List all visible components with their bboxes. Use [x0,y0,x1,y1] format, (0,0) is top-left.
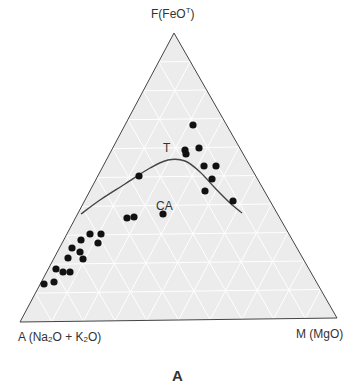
ternary-triangle [20,33,337,322]
data-point [76,248,83,255]
data-point [77,236,84,243]
ternary-chart: T CA F(FeOT) A (Na2O + K2O) M (MgO) A [0,0,355,391]
data-point [68,244,75,251]
data-point [52,265,59,272]
data-point [212,162,219,169]
data-point [135,172,142,179]
data-point [195,144,202,151]
data-point [123,214,130,221]
data-point [130,213,137,220]
data-point [229,197,236,204]
data-point [86,230,93,237]
data-point [182,150,189,157]
vertex-label-top: F(FeOT) [151,6,195,21]
data-point [189,121,196,128]
field-label-ca: CA [156,199,173,213]
chart-caption: A [172,367,183,384]
data-point [59,268,66,275]
data-point [40,280,47,287]
data-point [97,230,104,237]
data-point [94,239,101,246]
data-point [208,175,215,182]
data-point [66,268,73,275]
data-point [64,254,71,261]
data-point [79,255,86,262]
data-point [200,162,207,169]
field-label-t: T [163,141,171,155]
data-point [50,278,57,285]
data-point [201,187,208,194]
vertex-label-left: A (Na2O + K2O) [18,330,101,344]
vertex-label-right: M (MgO) [296,327,343,341]
